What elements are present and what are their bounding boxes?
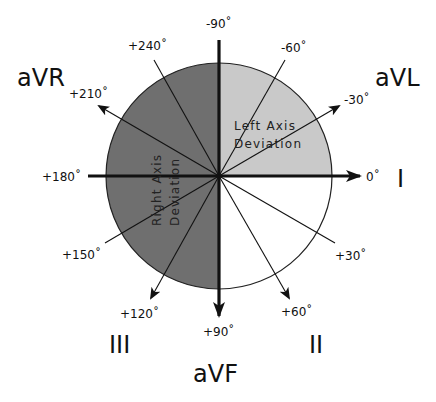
left-axis-deviation-label-line1: Left Axis xyxy=(234,119,296,133)
angle-label-minus30: -30˚ xyxy=(344,92,370,107)
hexaxial-diagram: Left Axis Deviation Right Axis Deviation… xyxy=(0,0,436,402)
axis-line-plus30 xyxy=(219,176,335,243)
angle-label-minus60: -60˚ xyxy=(281,40,307,55)
angle-label-plus60: +60˚ xyxy=(281,304,312,319)
right-axis-deviation-label-line2: Deviation xyxy=(168,158,182,226)
angle-label-plus30: +30˚ xyxy=(335,248,366,263)
axis-arrow-plus60-lead-II xyxy=(219,176,289,298)
left-axis-deviation-label-line2: Deviation xyxy=(234,137,302,151)
lead-label-aVR: aVR xyxy=(17,64,65,92)
lead-label-I: I xyxy=(397,165,404,193)
angle-label-plus150: +150˚ xyxy=(62,247,101,262)
angle-label-plus240: +240˚ xyxy=(128,38,167,53)
right-axis-deviation-label-line1: Right Axis xyxy=(150,154,164,226)
angle-label-plus210: +210˚ xyxy=(69,86,108,101)
angle-label-minus90: -90˚ xyxy=(206,16,232,31)
angle-label-plus180: +180˚ xyxy=(42,169,81,184)
angle-label-0: 0˚ xyxy=(366,169,380,184)
lead-label-III: III xyxy=(109,331,130,359)
lead-label-II: II xyxy=(309,331,323,359)
lead-label-aVF: aVF xyxy=(193,360,238,388)
lead-label-aVL: aVL xyxy=(375,64,420,92)
angle-label-plus90: +90˚ xyxy=(203,324,234,339)
angle-label-plus120: +120˚ xyxy=(120,306,159,321)
